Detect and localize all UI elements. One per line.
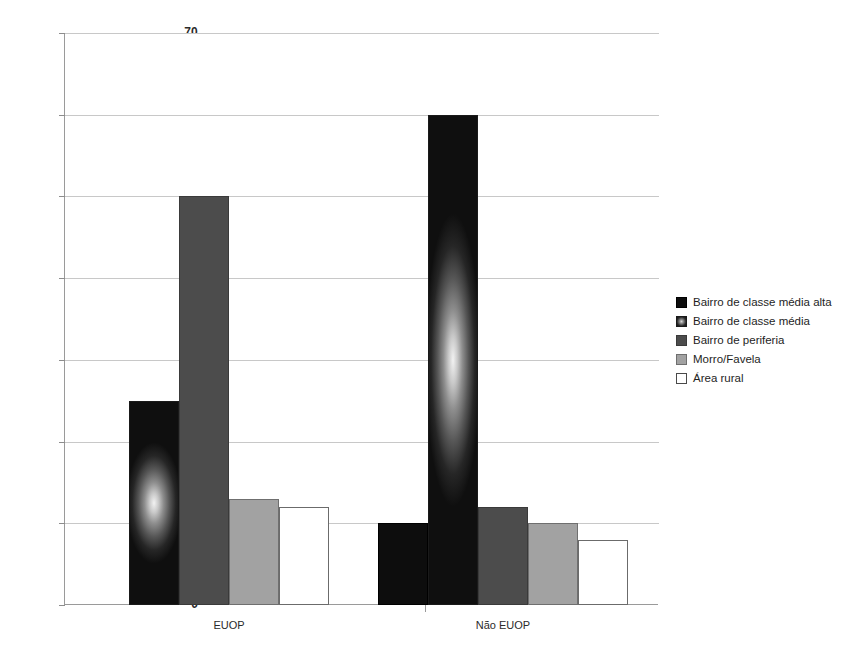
bars-layer — [64, 33, 658, 605]
bar — [528, 523, 578, 605]
legend-item-label: Morro/Favela — [693, 353, 761, 366]
bar-chart: 010203040506070 EUOPNão EUOP Bairro de c… — [0, 0, 866, 652]
x-axis-category-label: Não EUOP — [423, 619, 583, 631]
x-axis-separator-tick — [425, 605, 426, 612]
bar — [378, 523, 428, 605]
chart-legend: Bairro de classe média altaBairro de cla… — [676, 293, 862, 388]
bar — [578, 540, 628, 605]
x-axis-category-label: EUOP — [149, 619, 309, 631]
legend-swatch-icon — [676, 316, 687, 327]
legend-item-label: Bairro de periferia — [693, 334, 784, 347]
bar — [478, 507, 528, 605]
legend-item: Bairro de periferia — [676, 331, 862, 349]
bar — [279, 507, 329, 605]
bar — [428, 115, 478, 605]
legend-swatch-icon — [676, 354, 687, 365]
bar — [179, 196, 229, 605]
legend-swatch-icon — [676, 297, 687, 308]
legend-item: Área rural — [676, 369, 862, 387]
legend-item: Bairro de classe média alta — [676, 293, 862, 311]
legend-item-label: Bairro de classe média alta — [693, 296, 832, 309]
legend-item: Morro/Favela — [676, 350, 862, 368]
legend-item-label: Área rural — [693, 372, 744, 385]
legend-item: Bairro de classe média — [676, 312, 862, 330]
legend-item-label: Bairro de classe média — [693, 315, 810, 328]
bar — [129, 401, 179, 605]
legend-swatch-icon — [676, 373, 687, 384]
legend-swatch-icon — [676, 335, 687, 346]
bar — [229, 499, 279, 605]
y-axis-tick — [59, 605, 65, 606]
